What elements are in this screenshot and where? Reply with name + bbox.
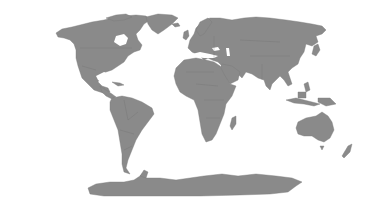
- australia: [296, 112, 334, 142]
- iceland: [172, 23, 180, 27]
- madagascar: [230, 116, 236, 130]
- new-guinea: [318, 98, 336, 106]
- british-isles: [183, 30, 189, 40]
- caribbean-islands: [112, 82, 124, 86]
- japan: [312, 44, 320, 56]
- tasmania: [320, 146, 324, 150]
- antarctica: [88, 172, 302, 196]
- indonesia: [286, 98, 320, 106]
- philippines: [304, 82, 310, 92]
- new-zealand: [342, 144, 352, 158]
- north-america: [56, 15, 150, 94]
- world-map: [0, 0, 374, 209]
- borneo: [298, 92, 306, 98]
- south-america: [110, 96, 154, 174]
